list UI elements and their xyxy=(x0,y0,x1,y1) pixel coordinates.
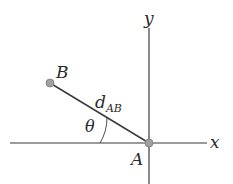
point-b-label: B xyxy=(55,62,69,82)
x-axis-label: x xyxy=(210,132,220,152)
distance-label: dAB xyxy=(95,92,122,115)
y-axis-label: y xyxy=(143,8,154,28)
angle-arc xyxy=(100,118,107,143)
point-a-label: A xyxy=(129,149,143,169)
diagram-canvas: y x B A θ dAB xyxy=(0,0,233,184)
angle-theta-label: θ xyxy=(85,117,95,136)
distance-label-main: d xyxy=(95,92,106,112)
point-a xyxy=(145,139,153,147)
point-b xyxy=(46,79,54,87)
distance-label-subscript: AB xyxy=(105,102,122,115)
